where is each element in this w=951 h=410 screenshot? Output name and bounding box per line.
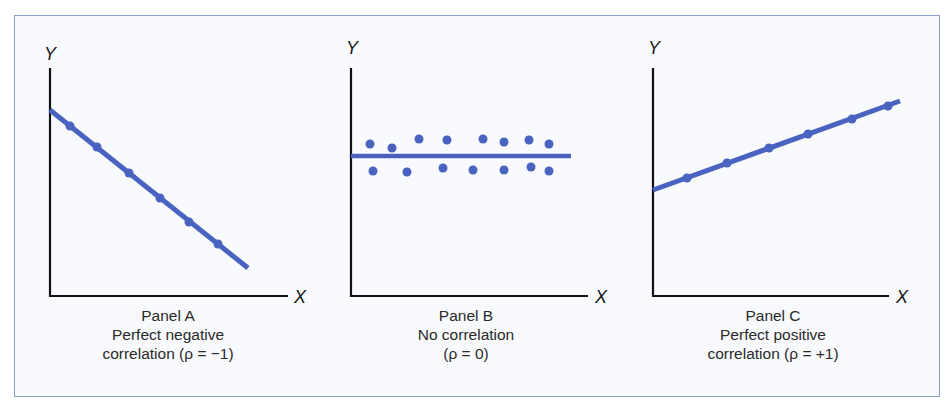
panel-a-y-label: Y	[44, 44, 58, 64]
panel-a-x-label: X	[293, 287, 307, 307]
panel-b-caption: Panel B No correlation (ρ = 0)	[346, 306, 586, 363]
panel-a-title: Panel A	[48, 306, 288, 325]
panel-a-caption-line2: correlation (ρ = −1)	[48, 344, 288, 363]
panel-b-x-label: X	[594, 287, 608, 307]
panel-a-caption: Panel A Perfect negative correlation (ρ …	[48, 306, 288, 363]
panel-a-caption-line1: Perfect negative	[48, 325, 288, 344]
panel-c-caption-line1: Perfect positive	[653, 325, 893, 344]
panel-b-y-label: Y	[346, 38, 360, 58]
panel-c-title: Panel C	[653, 306, 893, 325]
panel-c-plot: Y X	[648, 38, 909, 307]
panel-b-plot: Y X	[346, 38, 608, 307]
panel-c-y-label: Y	[648, 38, 662, 58]
panel-b-caption-line2: (ρ = 0)	[346, 344, 586, 363]
panel-c-caption-line2: correlation (ρ = +1)	[653, 344, 893, 363]
panel-c-caption: Panel C Perfect positive correlation (ρ …	[653, 306, 893, 363]
panel-c-x-label: X	[895, 287, 909, 307]
panel-b-caption-line1: No correlation	[346, 325, 586, 344]
panel-a-plot: Y X	[44, 44, 307, 307]
panel-b-title: Panel B	[346, 306, 586, 325]
